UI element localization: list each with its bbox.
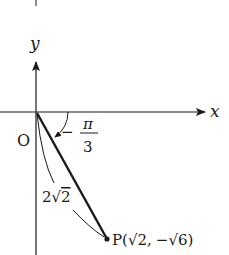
length-radical: √ [52,188,62,206]
length-coef: 2 [42,188,52,206]
angle-minus-sign: − [61,123,74,141]
point-close-paren: ) [188,231,194,249]
angle-numerator: π [82,115,94,133]
point-p-dot [104,236,109,241]
y-axis-label: y [29,33,40,53]
length-radicand: 2 [61,188,71,206]
point-name: P [112,231,122,249]
x-axis-label: x [210,101,220,121]
origin-label: O [17,131,30,150]
coordinate-diagram: y x O − π 3 2√2 P(√2,−√6) [0,0,229,255]
angle-denominator: 3 [83,138,93,156]
point-y-coord: −√6 [156,231,188,249]
point-separator: , [147,231,152,249]
segment-length-label: 2√2 [42,188,71,206]
length-brace-upper [37,114,54,183]
point-p-label: P(√2,−√6) [112,231,193,249]
point-x-coord: √2 [128,231,147,249]
